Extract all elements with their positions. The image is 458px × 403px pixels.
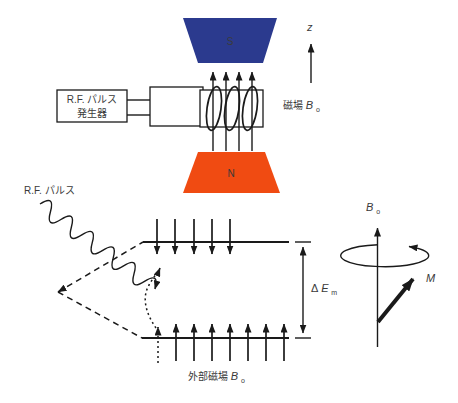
z-axis-label: z	[306, 21, 313, 33]
delta-e-label: Δ E m	[311, 282, 337, 296]
magnet-s-pole: S	[183, 18, 277, 63]
nmr-principle-figure: R.F. パルス 発生器	[0, 0, 458, 403]
precession-diagram: B o M	[341, 201, 436, 347]
magnetization-label: M	[426, 272, 436, 284]
rf-generator-label-line1: R.F. パルス	[67, 94, 118, 105]
z-axis: z	[306, 21, 313, 83]
magnetization-vector-arrow	[378, 279, 413, 322]
precession-axis-sub: o	[376, 208, 380, 215]
rf-pulse-wave-arrow	[35, 197, 160, 296]
precession-circle-arrow	[341, 245, 429, 267]
rf-pulse-label: R.F. パルス	[24, 185, 75, 196]
delta-e-sub: m	[331, 289, 337, 296]
magnet-n-label: N	[227, 168, 234, 179]
field-label: 磁場 B o	[283, 99, 320, 113]
top-magnet-diagram: R.F. パルス 発生器	[57, 18, 320, 193]
rf-generator-box: R.F. パルス 発生器	[57, 90, 127, 122]
generator-wires	[127, 87, 203, 126]
nmr-figure-svg: R.F. パルス 発生器	[0, 0, 458, 403]
field-label-sub: o	[316, 106, 320, 113]
level-splitting-dashed-lines	[58, 242, 143, 338]
energy-level-diagram: R.F. パルス	[24, 185, 337, 384]
delta-e-var: E	[321, 282, 329, 294]
delta-e-delta: Δ	[311, 282, 319, 294]
lower-energy-level	[142, 324, 289, 361]
precession-axis-var: B	[366, 201, 373, 213]
coil-housing	[150, 87, 203, 126]
external-field-var: B	[231, 370, 238, 382]
external-field-sub: o	[241, 377, 245, 384]
field-label-var: B	[306, 99, 313, 111]
upper-energy-level	[143, 219, 289, 254]
upper-spin-down-arrows	[157, 219, 230, 254]
external-field-label: 外部磁場 B o	[188, 370, 245, 384]
induction-coil	[200, 72, 263, 151]
rf-generator-label-line2: 発生器	[77, 107, 107, 119]
magnet-n-pole: N	[183, 152, 280, 193]
spin-transition-arrows	[145, 268, 160, 363]
magnet-s-label: S	[227, 36, 234, 47]
lower-spin-up-arrows	[176, 324, 284, 361]
precession-axis-label: B o	[366, 201, 380, 215]
field-label-text: 磁場	[283, 99, 306, 111]
external-field-text: 外部磁場	[188, 370, 231, 382]
delta-e-arrow: Δ E m	[295, 242, 337, 338]
